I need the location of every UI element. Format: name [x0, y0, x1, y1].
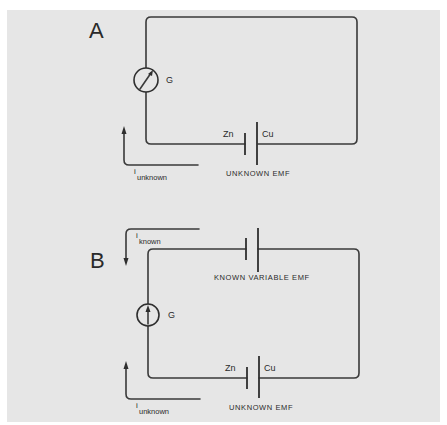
panel-a-current-label: i unknown — [134, 160, 167, 182]
panel-b-known-cell-icon — [246, 228, 258, 272]
panel-b-known-emf-caption: KNOWN VARIABLE EMF — [214, 273, 310, 282]
panel-a-circuit-wire — [146, 17, 357, 144]
panel-b-unknown-emf-caption: UNKNOWN EMF — [229, 403, 293, 412]
panel-b-known-current-arrow-icon — [124, 229, 200, 266]
panel-a-cu-label: Cu — [262, 129, 274, 139]
panel-b-galvanometer-label: G — [168, 310, 175, 320]
panel-a-unknown-emf-caption: UNKNOWN EMF — [226, 169, 290, 178]
panel-a: A G Zn Cu UNKNOWN EMF i unknown — [89, 17, 357, 182]
panel-b-cu-label: Cu — [264, 363, 276, 373]
panel-a-galvanometer-icon — [134, 68, 158, 92]
panel-b-unknown-cell-icon — [247, 356, 259, 398]
panel-a-letter: A — [89, 18, 104, 43]
potentiometer-circuit-diagram: A G Zn Cu UNKNOWN EMF i unknown B — [0, 0, 447, 425]
panel-a-zn-label: Zn — [223, 129, 234, 139]
panel-b-zn-label: Zn — [225, 363, 236, 373]
panel-b-letter: B — [90, 248, 105, 273]
panel-a-current-arrow-icon — [122, 126, 199, 165]
panel-a-unknown-cell-icon — [245, 122, 257, 165]
panel-b-galvanometer-icon — [137, 304, 159, 326]
panel-a-galvanometer-label: G — [166, 75, 173, 85]
panel-b-circuit-wire — [148, 249, 359, 378]
panel-b-unknown-current-label: i unknown — [136, 394, 169, 416]
panel-b-unknown-current-arrow-icon — [124, 361, 201, 399]
panel-b: B KNOWN VARIABLE EMF G Zn Cu UNKNOWN EMF — [90, 224, 359, 416]
panel-b-known-current-label: i known — [136, 224, 161, 246]
